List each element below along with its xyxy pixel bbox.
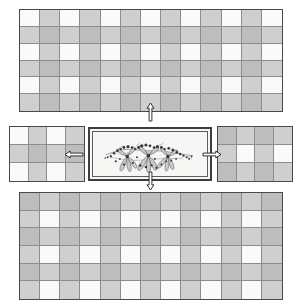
gingham-cell [40,264,60,282]
gingham-cell [20,228,40,246]
arrow-glyph [65,151,83,158]
gingham-cell [10,127,29,145]
gingham-cell [201,10,221,27]
gingham-cell [255,127,274,145]
arrow-right-icon [202,149,222,160]
arrow-left-icon [64,149,84,160]
gingham-cell [40,61,60,78]
gingham-cell [181,44,201,61]
gingham-cell [201,94,221,111]
gingham-cell [181,264,201,282]
gingham-cell [237,163,256,181]
gingham-cell [121,27,141,44]
gingham-cell [80,77,100,94]
gingham-cell [218,127,237,145]
arrow-up-icon [145,102,156,122]
gingham-cell [80,27,100,44]
gingham-cell [80,211,100,229]
gingham-cell [29,145,48,163]
gingham-cell [242,27,262,44]
gingham-cell [60,61,80,78]
gingham-cell [121,10,141,27]
gingham-cell [141,211,161,229]
gingham-cell [242,61,262,78]
arrow-glyph [147,172,154,190]
gingham-cell [141,10,161,27]
gingham-cell [101,193,121,211]
gingham-cell [242,246,262,264]
gingham-cell [201,246,221,264]
gingham-cell [80,10,100,27]
gingham-cell [121,228,141,246]
gingham-cell [222,246,242,264]
gingham-cell [181,246,201,264]
arrow-glyph [203,151,221,158]
top-gingham-panel [19,9,283,112]
gingham-cell [141,281,161,299]
gingham-cell [80,94,100,111]
gingham-cell [181,193,201,211]
gingham-cell [222,61,242,78]
gingham-cell [262,281,282,299]
gingham-cell [242,193,262,211]
gingham-cell [181,77,201,94]
gingham-cell [40,77,60,94]
gingham-cell [141,246,161,264]
gingham-cell [201,211,221,229]
gingham-cell [20,27,40,44]
gingham-cell [222,281,242,299]
gingham-cell [262,10,282,27]
gingham-cell [141,193,161,211]
gingham-cell [222,94,242,111]
gingham-cell [262,228,282,246]
gingham-cell [20,264,40,282]
gingham-cell [201,193,221,211]
gingham-cell [60,193,80,211]
floral-spray-motif [93,132,207,176]
gingham-cell [161,77,181,94]
gingham-cell [222,193,242,211]
gingham-cell [10,145,29,163]
gingham-cell [40,228,60,246]
gingham-cell [101,228,121,246]
gingham-cell [274,163,293,181]
gingham-cell [262,94,282,111]
gingham-cell [262,61,282,78]
gingham-cell [66,127,85,145]
gingham-cell [80,228,100,246]
gingham-cell [101,77,121,94]
gingham-cell [218,163,237,181]
gingham-cell [121,264,141,282]
gingham-cell [242,281,262,299]
top-gingham-grid [20,10,282,111]
gingham-cell [60,10,80,27]
gingham-cell [40,211,60,229]
gingham-cell [181,27,201,44]
gingham-cell [29,127,48,145]
gingham-cell [141,44,161,61]
gingham-cell [40,44,60,61]
gingham-cell [141,27,161,44]
middle-right-gingham-block [217,126,293,182]
gingham-cell [60,246,80,264]
gingham-cell [80,264,100,282]
gingham-cell [201,77,221,94]
gingham-cell [242,264,262,282]
gingham-cell [222,228,242,246]
gingham-cell [161,27,181,44]
gingham-cell [201,281,221,299]
gingham-cell [222,27,242,44]
gingham-cell [161,94,181,111]
lily-flower [137,146,158,174]
gingham-cell [60,264,80,282]
gingham-cell [161,264,181,282]
gingham-cell [161,44,181,61]
gingham-cell [10,163,29,181]
gingham-cell [222,211,242,229]
gingham-cell [47,145,66,163]
gingham-cell [47,127,66,145]
bottom-gingham-grid [20,193,282,299]
gingham-cell [101,61,121,78]
gingham-cell [181,94,201,111]
gingham-cell [262,27,282,44]
